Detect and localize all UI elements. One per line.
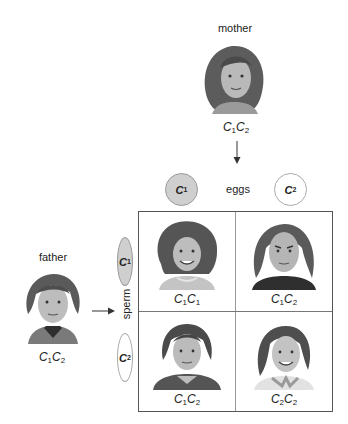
right-arrow-icon xyxy=(92,306,116,316)
sperm-c2: C2 xyxy=(117,333,133,382)
mother-portrait xyxy=(198,40,270,114)
woman-long-hair-portrait xyxy=(244,218,324,290)
girl-curly-hair-portrait xyxy=(149,218,225,290)
father-genotype: C1C2 xyxy=(26,350,78,365)
cell-genotype: C1C1 xyxy=(139,292,235,307)
cell-genotype: C1C2 xyxy=(236,292,332,307)
eggs-label: eggs xyxy=(218,183,258,195)
mother-genotype: C1C2 xyxy=(210,120,262,135)
girl-straight-hair-portrait xyxy=(246,320,322,390)
egg-c1: C1 xyxy=(165,173,198,206)
mother-label: mother xyxy=(200,22,270,34)
cell-genotype: C1C2 xyxy=(139,392,235,407)
sperm-c1: C1 xyxy=(117,237,133,286)
punnett-cell-c2c2: C2C2 xyxy=(236,312,332,411)
egg-c2: C2 xyxy=(274,173,307,206)
father-label: father xyxy=(18,251,88,263)
cell-genotype: C2C2 xyxy=(236,392,332,407)
sperm-label: sperm xyxy=(120,284,132,324)
punnett-cell-c1c2-top: C1C2 xyxy=(236,212,332,311)
punnett-square: C1C1 C1C2 C1C2 xyxy=(138,211,333,412)
punnett-cell-c1c1: C1C1 xyxy=(139,212,235,311)
father-portrait xyxy=(14,268,92,344)
down-arrow-icon xyxy=(232,141,242,165)
young-man-portrait xyxy=(147,320,227,390)
punnett-cell-c1c2-bottom: C1C2 xyxy=(139,312,235,411)
